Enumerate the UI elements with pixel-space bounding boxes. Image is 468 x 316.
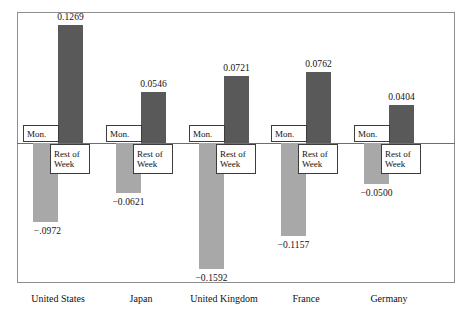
value-label-mon-japan: −0.0621	[101, 197, 156, 207]
legend-tag-mon-label: Mon.	[358, 129, 377, 139]
value-label-mon-germany: −0.0500	[349, 188, 404, 198]
legend-tag-mon-united-kingdom: Mon.	[189, 125, 225, 142]
legend-tag-rest-line1: Rest of	[385, 149, 418, 159]
value-label-mon-france: −0.1157	[266, 240, 321, 250]
legend-tag-rest-line2: Week	[220, 159, 253, 169]
legend-tag-mon-label: Mon.	[275, 129, 294, 139]
bar-rest-france	[306, 72, 331, 143]
legend-tag-rest-line2: Week	[385, 159, 418, 169]
value-label-rest-japan: 0.0546	[126, 79, 181, 89]
legend-tag-mon-label: Mon.	[193, 129, 212, 139]
legend-tag-rest-line1: Rest of	[137, 149, 170, 159]
chart-canvas: 0.1269 −.0972 Mon. Rest of Week 0.0546 −…	[0, 0, 468, 316]
value-label-mon-united-states: −.0972	[20, 226, 75, 236]
legend-tag-mon-germany: Mon.	[354, 125, 390, 142]
bar-rest-united-kingdom	[224, 76, 249, 143]
bar-rest-united-states	[58, 25, 83, 143]
legend-tag-rest-line2: Week	[54, 159, 87, 169]
legend-tag-rest-line2: Week	[137, 159, 170, 169]
category-label-germany: Germany	[349, 293, 429, 304]
category-label-japan: Japan	[101, 293, 181, 304]
value-label-rest-united-kingdom: 0.0721	[209, 63, 264, 73]
value-label-rest-germany: 0.0404	[374, 92, 429, 102]
legend-tag-rest-line1: Rest of	[302, 149, 335, 159]
value-label-rest-france: 0.0762	[291, 59, 346, 69]
legend-tag-mon-united-states: Mon.	[23, 125, 59, 142]
legend-tag-mon-label: Mon.	[110, 129, 129, 139]
legend-tag-rest-line1: Rest of	[54, 149, 87, 159]
bar-rest-germany	[389, 105, 414, 143]
legend-tag-rest-france: Rest of Week	[298, 144, 338, 174]
value-label-mon-united-kingdom: −0.1592	[184, 273, 239, 283]
legend-tag-rest-japan: Rest of Week	[133, 144, 173, 174]
legend-tag-rest-germany: Rest of Week	[381, 144, 421, 174]
bar-rest-japan	[141, 92, 166, 143]
category-label-france: France	[266, 293, 346, 304]
legend-tag-rest-line2: Week	[302, 159, 335, 169]
legend-tag-mon-france: Mon.	[271, 125, 307, 142]
legend-tag-rest-united-states: Rest of Week	[50, 144, 90, 174]
legend-tag-rest-united-kingdom: Rest of Week	[216, 144, 256, 174]
legend-tag-mon-label: Mon.	[27, 129, 46, 139]
legend-tag-rest-line1: Rest of	[220, 149, 253, 159]
category-label-united-states: United States	[18, 293, 98, 304]
value-label-rest-united-states: 0.1269	[43, 12, 98, 22]
category-label-united-kingdom: United Kingdom	[184, 293, 264, 304]
legend-tag-mon-japan: Mon.	[106, 125, 142, 142]
